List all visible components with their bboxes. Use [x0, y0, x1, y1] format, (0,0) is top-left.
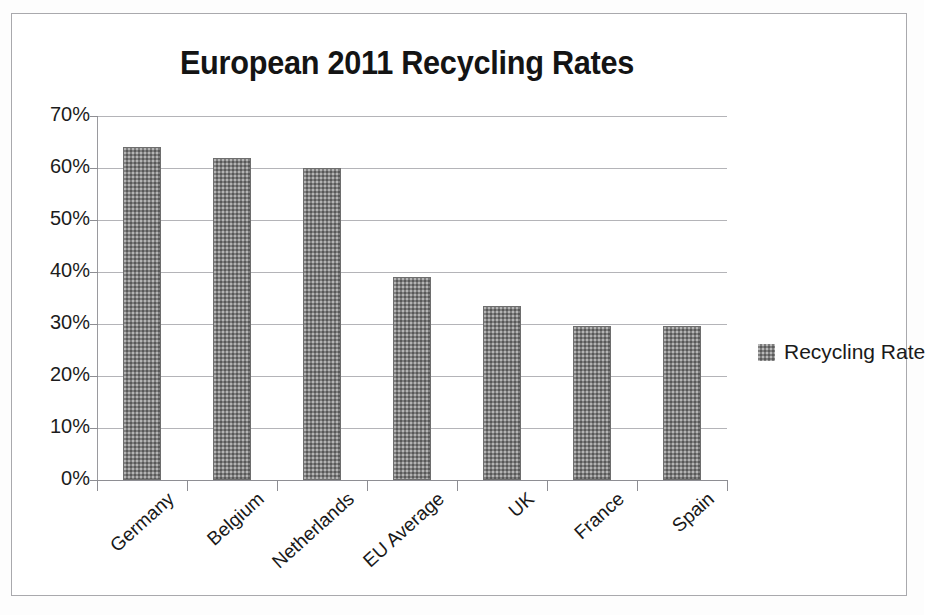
bar-belgium — [213, 158, 251, 480]
x-axis-label-spain: Spain — [668, 488, 719, 537]
x-tick — [97, 480, 98, 491]
x-tick — [457, 480, 458, 491]
y-axis-tick-label: 0% — [28, 467, 90, 490]
gridline-70% — [97, 116, 727, 117]
x-tick — [727, 480, 728, 491]
chart-title: European 2011 Recycling Rates — [109, 44, 704, 82]
bar-uk — [483, 306, 521, 480]
y-tick-70% — [90, 116, 98, 117]
gridline-40% — [97, 272, 727, 273]
bar-germany — [123, 147, 161, 480]
x-axis-label-france: France — [570, 488, 629, 544]
chart-frame: European 2011 Recycling Rates 0%10%20%30… — [11, 13, 907, 596]
y-axis-tick-label: 30% — [28, 311, 90, 334]
x-axis-label-uk: UK — [504, 488, 538, 522]
y-tick-20% — [90, 376, 98, 377]
x-tick — [277, 480, 278, 491]
gridline-60% — [97, 168, 727, 169]
y-axis-tick-label: 70% — [28, 103, 90, 126]
x-axis-label-germany: Germany — [106, 488, 179, 557]
x-tick — [187, 480, 188, 491]
bar-netherlands — [303, 168, 341, 480]
x-tick — [547, 480, 548, 491]
legend-label-recycling-rate: Recycling Rate — [784, 340, 925, 364]
bar-eu-average — [393, 277, 431, 480]
y-axis-tick-label: 10% — [28, 415, 90, 438]
plot-area — [97, 116, 727, 480]
y-axis-tick-label: 60% — [28, 155, 90, 178]
y-tick-10% — [90, 428, 98, 429]
y-axis-tick-label: 50% — [28, 207, 90, 230]
x-axis-label-eu-average: EU Average — [359, 488, 449, 572]
y-tick-40% — [90, 272, 98, 273]
bar-france — [573, 326, 611, 480]
y-axis-tick-label: 20% — [28, 363, 90, 386]
x-tick — [367, 480, 368, 491]
gridline-50% — [97, 220, 727, 221]
x-tick — [637, 480, 638, 491]
legend-swatch-recycling-rate — [758, 344, 775, 361]
y-tick-50% — [90, 220, 98, 221]
x-axis-label-belgium: Belgium — [203, 488, 269, 550]
y-axis-tick-label: 40% — [28, 259, 90, 282]
bar-spain — [663, 326, 701, 480]
x-axis-line — [97, 480, 728, 481]
y-tick-60% — [90, 168, 98, 169]
chart-legend: Recycling Rate — [758, 340, 925, 364]
x-axis-label-netherlands: Netherlands — [268, 488, 359, 573]
y-tick-30% — [90, 324, 98, 325]
y-axis-labels: 0%10%20%30%40%50%60%70% — [20, 14, 90, 615]
